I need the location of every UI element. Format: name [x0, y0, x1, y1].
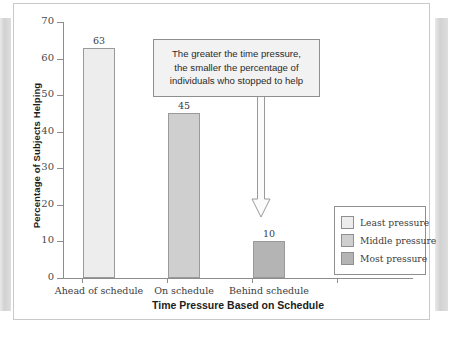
x-axis-label: Time Pressure Based on Schedule — [63, 299, 413, 311]
legend-label-most: Most pressure — [360, 253, 427, 264]
bar-on-schedule[interactable]: 45 — [168, 113, 200, 278]
y-tick-20: 20 — [57, 205, 64, 206]
legend-swatch-least — [341, 216, 354, 229]
legend-item-most[interactable]: Most pressure — [341, 250, 419, 267]
legend-label-middle: Middle pressure — [360, 235, 436, 246]
y-tick-50: 50 — [57, 95, 64, 96]
page-edge-band-right — [435, 18, 448, 311]
x-tick-4 — [337, 278, 338, 283]
y-tick-10: 10 — [57, 241, 64, 242]
bar-ahead-of-schedule[interactable]: 63 — [83, 48, 115, 278]
x-tick-2 — [167, 278, 168, 283]
legend-swatch-middle — [341, 234, 354, 247]
bar-value-ahead-of-schedule: 63 — [93, 35, 105, 46]
annotation-line-1: The greater the time pressure, — [162, 47, 311, 61]
annotation-line-3: individuals who stopped to help — [162, 74, 311, 88]
annotation-line-2: the smaller the percentage of — [162, 61, 311, 75]
y-axis-line — [63, 22, 64, 278]
y-tick-0: 0 — [57, 278, 64, 279]
x-axis-line — [63, 278, 413, 279]
y-axis-label: Percentage of Subjects Helping — [31, 56, 42, 256]
y-tick-70: 70 — [57, 22, 64, 23]
annotation-callout: The greater the time pressure, the small… — [153, 39, 320, 97]
x-category-label-ahead: Ahead of schedule — [55, 285, 143, 296]
x-tick-3 — [252, 278, 253, 283]
chart-panel: 70 60 50 40 30 20 10 0 Percentage of Sub… — [13, 3, 430, 320]
annotation-arrow — [250, 91, 272, 219]
legend-item-middle[interactable]: Middle pressure — [341, 232, 419, 249]
x-category-label-behind: Behind schedule — [229, 285, 309, 296]
plot-area: 70 60 50 40 30 20 10 0 Percentage of Sub… — [14, 4, 429, 319]
x-category-label-on: On schedule — [154, 285, 214, 296]
y-tick-40: 40 — [57, 132, 64, 133]
legend-item-least[interactable]: Least pressure — [341, 214, 419, 231]
legend-swatch-most — [341, 252, 354, 265]
y-tick-60: 60 — [57, 59, 64, 60]
y-tick-30: 30 — [57, 168, 64, 169]
chart-legend: Least pressure Middle pressure Most pres… — [334, 206, 426, 275]
x-tick-1 — [82, 278, 83, 283]
bar-value-on-schedule: 45 — [178, 100, 190, 111]
page-edge-band-left — [0, 18, 11, 311]
bar-value-behind-schedule: 10 — [263, 228, 275, 239]
bar-behind-schedule[interactable]: 10 — [253, 241, 285, 278]
legend-label-least: Least pressure — [360, 217, 429, 228]
